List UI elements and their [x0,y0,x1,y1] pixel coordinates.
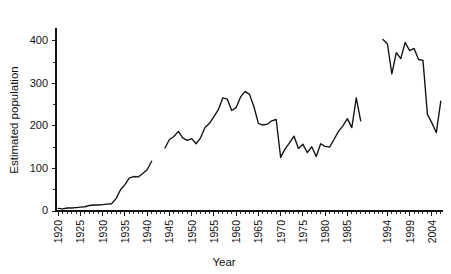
y-tick-label: 0 [42,204,48,216]
y-axis: 0100200300400 [30,28,56,216]
y-axis-title: Estimated population [8,66,20,173]
data-line-segment-2 [165,91,361,157]
x-tick-label: 1994 [381,220,393,244]
x-tick-label: 1945 [163,220,175,244]
x-tick-label: 2004 [426,220,438,244]
x-tick-label: 1960 [230,220,242,244]
x-tick-label: 1965 [252,220,264,244]
data-line-segment-3 [383,39,441,132]
y-tick-label: 200 [30,119,48,131]
x-axis-title: Year [212,256,235,268]
y-tick-label: 100 [30,162,48,174]
x-tick-label: 1980 [319,220,331,244]
data-line-segment-1 [58,161,151,209]
x-axis: 1920192519301935194019451950195519601965… [52,211,443,243]
x-tick-label: 1935 [119,220,131,244]
data-series-group [58,39,441,208]
x-tick-label: 1999 [404,220,416,244]
population-line-chart: 0100200300400 19201925193019351940194519… [0,0,451,274]
y-tick-label: 300 [30,77,48,89]
x-tick-label: 1985 [341,220,353,244]
x-tick-label: 1930 [97,220,109,244]
x-tick-label: 1955 [208,220,220,244]
chart-figure: 0100200300400 19201925193019351940194519… [0,0,451,274]
x-tick-label: 1925 [74,220,86,244]
x-tick-label: 1940 [141,220,153,244]
x-tick-label: 1975 [297,220,309,244]
x-tick-label: 1950 [186,220,198,244]
x-tick-label: 1920 [52,220,64,244]
x-tick-label: 1970 [275,220,287,244]
y-tick-label: 400 [30,34,48,46]
